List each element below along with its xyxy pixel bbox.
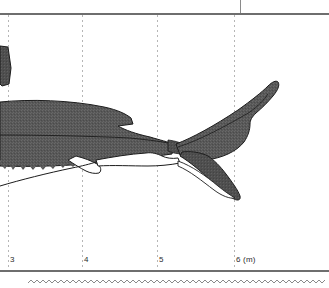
figure-page: 3 4 5 6 (m) xyxy=(0,0,329,288)
axis-baseline-rule xyxy=(0,270,329,272)
tick-label-3: 3 xyxy=(10,255,15,264)
column-divider-rule xyxy=(240,0,241,14)
tick-label-5: 5 xyxy=(159,255,164,264)
shark-illustration xyxy=(0,14,329,270)
tick-label-6-meters: 6 (m) xyxy=(236,255,256,264)
tick-label-4: 4 xyxy=(84,255,89,264)
caudal-fin-lower-lobe-shape xyxy=(180,152,240,200)
dorsal-fin-fragment-shape xyxy=(0,46,11,86)
wavy-divider-icon xyxy=(28,278,326,286)
caudal-fin-upper-lobe-shape xyxy=(176,81,279,160)
